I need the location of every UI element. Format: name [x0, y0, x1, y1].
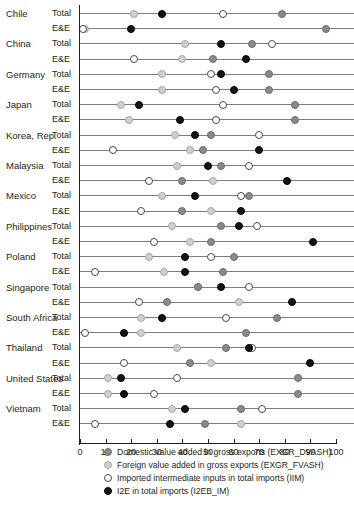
row-type-label-ee: E&E — [52, 176, 70, 185]
data-point-fvash — [178, 55, 186, 63]
data-point-fvash — [235, 298, 243, 306]
data-point-fvash — [160, 268, 168, 276]
data-point-fvash — [168, 405, 176, 413]
country-label: Poland — [6, 252, 36, 262]
data-point-iim — [81, 329, 89, 337]
row-type-label-total: Total — [52, 374, 71, 383]
data-point-fvash — [171, 131, 179, 139]
row-baseline — [80, 317, 354, 318]
data-point-dvash — [291, 101, 299, 109]
legend-label: Imported intermediate inputs in total im… — [117, 474, 304, 483]
data-point-fvash — [186, 146, 194, 154]
data-point-fvash — [137, 329, 145, 337]
data-point-iim — [212, 86, 220, 94]
country-label: Thailand — [6, 343, 42, 353]
data-point-fvash — [173, 162, 181, 170]
row-baseline — [80, 150, 354, 151]
data-point-iim — [219, 10, 227, 18]
country-label: China — [6, 39, 31, 49]
data-point-iim — [145, 177, 153, 185]
x-axis-tick — [336, 439, 337, 443]
data-point-dvash — [242, 329, 250, 337]
row-type-label-ee: E&E — [52, 328, 70, 337]
row-baseline — [80, 408, 354, 409]
y-axis-line — [79, 5, 80, 445]
row-baseline — [80, 302, 354, 303]
data-point-dvash — [230, 253, 238, 261]
data-point-dvash — [294, 374, 302, 382]
row-baseline — [80, 211, 354, 212]
data-point-i2eb — [309, 238, 317, 246]
data-point-i2eb — [181, 405, 189, 413]
legend-swatch-iim-icon — [104, 474, 112, 482]
legend-swatch-dvash-icon — [104, 448, 112, 456]
country-label: Singapore — [6, 283, 49, 293]
row-type-label-ee: E&E — [52, 115, 70, 124]
country-label: Philippines — [6, 222, 52, 232]
data-point-i2eb — [117, 374, 125, 382]
data-point-fvash — [117, 101, 125, 109]
x-axis-tick — [285, 439, 286, 443]
data-point-dvash — [294, 390, 302, 398]
row-type-label-ee: E&E — [52, 389, 70, 398]
row-type-label-ee: E&E — [52, 207, 70, 216]
country-label: Chile — [6, 9, 28, 19]
data-point-iim — [237, 192, 245, 200]
data-point-i2eb — [242, 55, 250, 63]
x-axis-tick — [208, 439, 209, 443]
data-point-i2eb — [283, 177, 291, 185]
row-type-label-total: Total — [52, 343, 71, 352]
data-point-iim — [120, 359, 128, 367]
row-type-label-ee: E&E — [52, 24, 70, 33]
data-point-i2eb — [245, 344, 253, 352]
row-type-label-ee: E&E — [52, 298, 70, 307]
data-point-dvash — [245, 192, 253, 200]
data-point-i2eb — [237, 207, 245, 215]
row-type-label-total: Total — [52, 191, 71, 200]
data-point-i2eb — [235, 222, 243, 230]
data-point-fvash — [145, 253, 153, 261]
data-point-i2eb — [217, 283, 225, 291]
data-point-dvash — [237, 405, 245, 413]
data-point-iim — [253, 222, 261, 230]
data-point-fvash — [207, 359, 215, 367]
data-point-dvash — [207, 238, 215, 246]
data-point-fvash — [125, 116, 133, 124]
legend-swatch-i2eb-icon — [104, 487, 112, 495]
data-point-dvash — [219, 268, 227, 276]
data-point-iim — [150, 238, 158, 246]
country-label: Germany — [6, 70, 45, 80]
x-axis-tick — [310, 439, 311, 443]
legend-item-dvash: Domestic value added in gross exports (E… — [104, 446, 354, 458]
data-point-i2eb — [166, 420, 174, 428]
data-point-dvash — [222, 344, 230, 352]
data-point-iim — [219, 101, 227, 109]
row-baseline — [80, 195, 354, 196]
row-type-label-total: Total — [52, 39, 71, 48]
country-label: Korea, Rep. — [6, 131, 57, 141]
legend-label: Domestic value added in gross exports (E… — [117, 448, 331, 457]
row-type-label-ee: E&E — [52, 55, 70, 64]
row-type-label-total: Total — [52, 252, 71, 261]
row-type-label-total: Total — [52, 283, 71, 292]
data-point-fvash — [209, 177, 217, 185]
data-point-iim — [150, 390, 158, 398]
data-point-iim — [245, 283, 253, 291]
data-point-dvash — [278, 10, 286, 18]
x-axis-tick — [106, 439, 107, 443]
row-baseline — [80, 13, 354, 14]
country-label: South Africa — [6, 313, 57, 323]
data-point-fvash — [237, 420, 245, 428]
x-axis-line — [79, 443, 337, 444]
data-point-iim — [137, 207, 145, 215]
data-point-iim — [130, 55, 138, 63]
data-point-iim — [91, 420, 99, 428]
country-label: Japan — [6, 100, 32, 110]
data-point-iim — [91, 268, 99, 276]
data-point-i2eb — [288, 298, 296, 306]
row-type-label-ee: E&E — [52, 146, 70, 155]
row-type-label-total: Total — [52, 131, 71, 140]
row-type-label-total: Total — [52, 161, 71, 170]
data-point-dvash — [291, 116, 299, 124]
data-point-iim — [212, 116, 220, 124]
